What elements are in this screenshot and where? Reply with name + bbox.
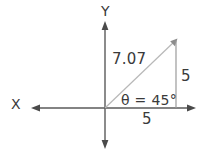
- y-axis-down-arrowhead: [102, 140, 109, 149]
- y-component-label: 5: [181, 69, 191, 84]
- x-axis-right-arrowhead: [187, 105, 196, 112]
- diagram-canvas: [0, 0, 204, 158]
- vector-diagram: Y X 7.07 5 5 θ = 45°: [0, 0, 204, 158]
- y-axis-label: Y: [101, 4, 110, 18]
- x-component-label: 5: [142, 112, 152, 127]
- x-axis-label: X: [11, 97, 21, 111]
- x-axis-left-arrowhead: [31, 105, 40, 112]
- vector-magnitude-label: 7.07: [112, 52, 146, 67]
- angle-label: θ = 45°: [121, 93, 177, 107]
- y-axis-up-arrowhead: [102, 21, 109, 30]
